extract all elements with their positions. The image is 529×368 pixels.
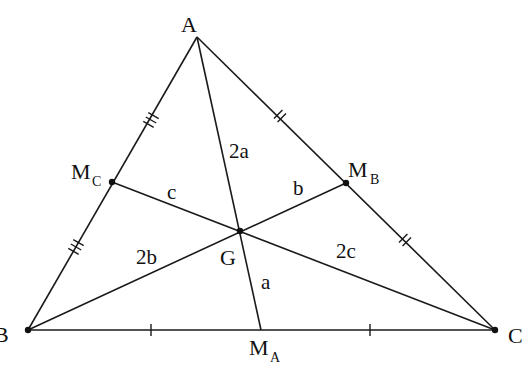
label-c: C <box>508 323 523 348</box>
svg-text:A: A <box>270 350 281 365</box>
label-g: G <box>220 245 236 270</box>
label-ag: 2a <box>229 139 250 163</box>
median-b <box>28 183 346 330</box>
median-a <box>197 37 261 330</box>
label-gmb: b <box>293 176 304 200</box>
triangle-diagram: A B C M C M B M A G 2a a 2b b 2c c <box>0 0 529 368</box>
label-gmc: c <box>167 180 176 204</box>
median-c <box>112 182 495 330</box>
svg-text:B: B <box>370 172 379 187</box>
svg-text:M: M <box>249 335 269 360</box>
point-b <box>25 327 31 333</box>
label-b: B <box>0 322 9 347</box>
svg-text:C: C <box>92 174 101 189</box>
point-g <box>237 228 243 234</box>
label-mb: M B <box>348 157 379 187</box>
label-bg: 2b <box>136 245 157 269</box>
label-mc: M C <box>71 159 101 189</box>
label-ma: M A <box>249 335 281 365</box>
svg-text:M: M <box>71 159 91 184</box>
label-a: A <box>181 12 197 37</box>
label-cg: 2c <box>336 239 356 263</box>
point-mc <box>109 179 115 185</box>
svg-text:M: M <box>348 157 368 182</box>
point-c <box>492 327 498 333</box>
label-gma: a <box>261 270 271 294</box>
